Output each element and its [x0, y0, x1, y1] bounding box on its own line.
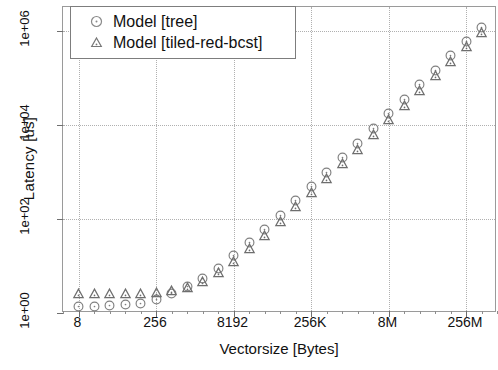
data-point-triangle — [337, 158, 348, 169]
data-point-triangle — [306, 187, 317, 198]
data-point-circle — [73, 301, 84, 312]
y-tick-label: 1e+00 — [17, 283, 32, 339]
data-point-triangle — [73, 288, 84, 299]
x-tick-minor — [110, 311, 111, 314]
x-tick-minor — [265, 311, 266, 314]
gridline-vertical — [466, 7, 467, 311]
chart-figure: Latency [us] Vectorsize [Bytes] 82568192… — [0, 0, 498, 370]
chart-legend: Model [tree] Model [tiled-red-bcst] — [70, 6, 296, 59]
y-tick-label: 1e+04 — [17, 94, 32, 150]
x-tick-label: 256K — [280, 314, 340, 330]
x-axis-title: Vectorsize [Bytes] — [62, 340, 496, 357]
x-tick-label: 8M — [358, 314, 418, 330]
data-point-triangle — [414, 85, 425, 96]
legend-item-tree: Model [tree] — [79, 11, 287, 32]
x-tick-label: 256M — [435, 314, 495, 330]
data-point-circle — [120, 299, 131, 310]
x-tick-minor — [420, 311, 421, 314]
x-tick-label: 8 — [48, 314, 108, 330]
gridline-vertical — [389, 7, 390, 311]
legend-label-tiled-red-bcst: Model [tiled-red-bcst] — [113, 34, 262, 52]
data-point-triangle — [399, 100, 410, 111]
data-point-triangle — [368, 129, 379, 140]
y-tick — [57, 125, 63, 126]
legend-label-tree: Model [tree] — [113, 13, 197, 31]
data-point-triangle — [259, 230, 270, 241]
data-point-triangle — [135, 288, 146, 299]
data-point-triangle — [383, 114, 394, 125]
y-tick-label: 1e+02 — [17, 188, 32, 244]
data-point-triangle — [244, 243, 255, 254]
data-point-triangle — [290, 201, 301, 212]
gridline-vertical — [311, 7, 312, 311]
y-tick — [57, 31, 63, 32]
data-point-triangle — [213, 267, 224, 278]
data-point-triangle — [151, 287, 162, 298]
gridline-horizontal — [63, 125, 495, 126]
data-point-circle — [135, 298, 146, 309]
data-point-triangle — [461, 41, 472, 52]
data-point-triangle — [430, 70, 441, 81]
x-tick-label: 8192 — [203, 314, 263, 330]
data-point-triangle — [197, 276, 208, 287]
data-point-triangle — [182, 282, 193, 293]
data-point-triangle — [352, 144, 363, 155]
data-point-triangle — [476, 27, 487, 38]
data-point-triangle — [104, 288, 115, 299]
data-point-triangle — [89, 288, 100, 299]
data-point-circle — [104, 300, 115, 311]
data-point-triangle — [445, 56, 456, 67]
data-point-triangle — [321, 173, 332, 184]
data-point-triangle — [275, 216, 286, 227]
triangle-icon — [79, 36, 113, 49]
data-point-triangle — [120, 288, 131, 299]
x-tick-minor — [342, 311, 343, 314]
data-point-circle — [89, 301, 100, 312]
x-tick-label: 256 — [125, 314, 185, 330]
y-tick — [57, 219, 63, 220]
data-point-triangle — [166, 285, 177, 296]
x-tick-minor — [187, 311, 188, 314]
circle-icon — [79, 15, 113, 28]
data-point-triangle — [228, 256, 239, 267]
y-tick-label: 1e+06 — [17, 0, 32, 56]
legend-item-tiled-red-bcst: Model [tiled-red-bcst] — [79, 32, 287, 53]
